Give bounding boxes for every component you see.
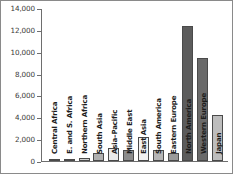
y-tick-label: 2,000	[15, 137, 35, 144]
bar-slot: South Asia	[91, 9, 106, 161]
bar-category-label: Western Europe	[200, 93, 207, 154]
bar[interactable]: East Asia	[138, 137, 149, 161]
bar[interactable]: North America	[182, 26, 193, 161]
bar[interactable]: Asia–Pacific	[108, 148, 119, 161]
y-tick-label: 0	[31, 158, 35, 165]
y-tick-label: 12,000	[10, 27, 35, 34]
bar-category-label: South Asia	[96, 113, 103, 154]
y-tick-label: 10,000	[10, 49, 35, 56]
y-tick-mark	[37, 9, 41, 10]
y-tick-label: 14,000	[10, 5, 35, 12]
bar-slot: Eastern Europe	[166, 9, 181, 161]
bar-category-label: Central Africa	[52, 102, 59, 154]
bar[interactable]: South America	[153, 150, 164, 161]
bar[interactable]: Northern Africa	[79, 158, 90, 161]
bar-category-label: Middle East	[126, 110, 133, 154]
y-tick-mark	[37, 53, 41, 54]
bar[interactable]: Japan	[212, 115, 223, 161]
bar-slot: East Asia	[136, 9, 151, 161]
bar-category-label: Japan	[215, 133, 222, 154]
bar-slot: Middle East	[121, 9, 136, 161]
y-tick-mark	[37, 31, 41, 32]
bar-slot: South America	[151, 9, 166, 161]
bar[interactable]: E. and S. Africa	[64, 159, 75, 161]
bar-category-label: South America	[156, 98, 163, 154]
bar-category-label: E. and S. Africa	[67, 96, 74, 154]
y-tick-mark	[37, 140, 41, 141]
bar-category-label: Asia–Pacific	[111, 110, 118, 154]
y-tick-label: 4,000	[15, 115, 35, 122]
y-tick-label: 6,000	[15, 93, 35, 100]
y-tick-mark	[37, 96, 41, 97]
y-tick-mark	[37, 118, 41, 119]
y-tick-label: 8,000	[15, 71, 35, 78]
bar[interactable]: South Asia	[93, 153, 104, 161]
plot-area: 14,00012,00010,0008,0006,0004,0002,0000 …	[41, 9, 228, 162]
bar[interactable]: Western Europe	[197, 58, 208, 161]
x-axis-line	[41, 161, 228, 162]
y-tick-mark	[37, 75, 41, 76]
bar[interactable]: Eastern Europe	[168, 153, 179, 161]
bar-slot: Japan	[210, 9, 225, 161]
bar-slot: Central Africa	[47, 9, 62, 161]
bar-category-label: Eastern Europe	[171, 96, 178, 154]
bar[interactable]: Middle East	[123, 150, 134, 161]
y-tick-mark	[37, 162, 41, 163]
bar-category-label: Northern Africa	[82, 95, 89, 154]
bar-chart: 14,00012,00010,0008,0006,0004,0002,0000 …	[0, 0, 233, 174]
bar-category-label: East Asia	[141, 119, 148, 154]
bar-slot: Asia–Pacific	[106, 9, 121, 161]
bar-slot: Northern Africa	[77, 9, 92, 161]
bar-series: Central AfricaE. and S. AfricaNorthern A…	[42, 9, 228, 161]
bar-category-label: North America	[185, 99, 192, 154]
bar-slot: Western Europe	[195, 9, 210, 161]
bar[interactable]: Central Africa	[49, 159, 60, 161]
bar-slot: North America	[180, 9, 195, 161]
bar-slot: E. and S. Africa	[62, 9, 77, 161]
